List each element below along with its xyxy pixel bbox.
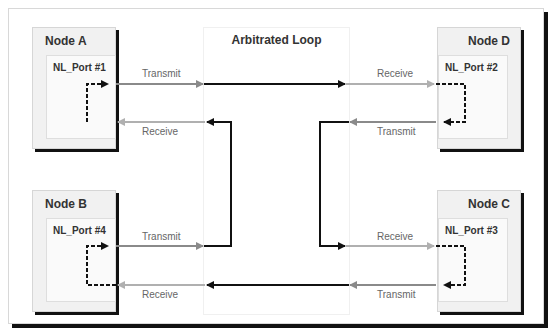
label-a-transmit: Transmit	[142, 68, 181, 79]
label-c-transmit: Transmit	[377, 289, 416, 300]
label-b-receive: Receive	[142, 289, 178, 300]
connection-lines	[0, 0, 550, 336]
label-c-receive: Receive	[377, 231, 413, 242]
label-a-receive: Receive	[142, 126, 178, 137]
label-b-transmit: Transmit	[142, 231, 181, 242]
label-d-transmit: Transmit	[377, 126, 416, 137]
label-d-receive: Receive	[377, 68, 413, 79]
